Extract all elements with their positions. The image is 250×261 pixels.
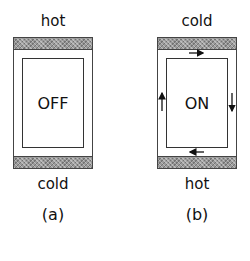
circulation-arrows: [0, 0, 250, 261]
